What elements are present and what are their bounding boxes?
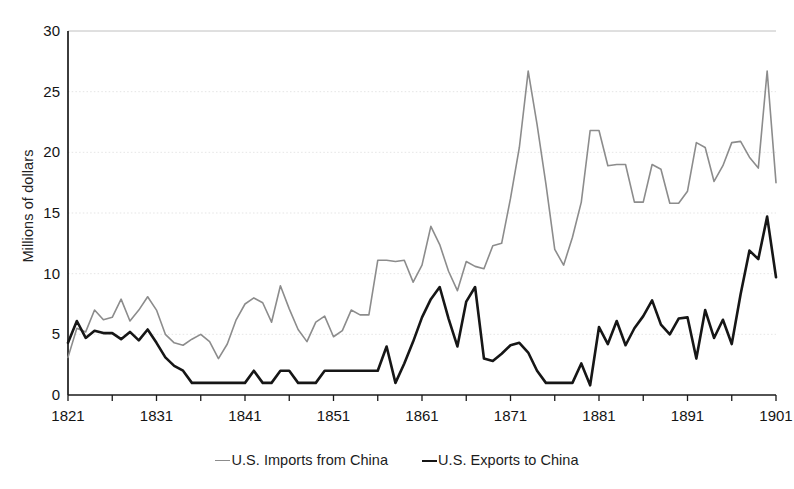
x-axis-tick-label: 1831 — [140, 408, 173, 423]
x-axis-tick-label: 1881 — [582, 408, 615, 423]
data-series — [68, 71, 776, 385]
x-axis-tick-label: 1891 — [671, 408, 704, 423]
chart-legend: U.S. Imports from China U.S. Exports to … — [0, 452, 794, 468]
line-chart: Millions of dollars 051015202530 1821183… — [0, 0, 794, 489]
x-axis-tick-label: 1901 — [759, 408, 792, 423]
legend-item-exports[interactable]: U.S. Exports to China — [422, 452, 578, 468]
legend-label-exports: U.S. Exports to China — [438, 452, 578, 468]
legend-label-imports: U.S. Imports from China — [231, 452, 388, 468]
x-axis-tick-label: 1871 — [494, 408, 527, 423]
legend-item-imports[interactable]: U.S. Imports from China — [215, 452, 388, 468]
x-axis-tick-label: 1861 — [405, 408, 438, 423]
gridlines — [68, 31, 776, 334]
x-axis-tick-label: 1841 — [228, 408, 261, 423]
series-line — [68, 217, 776, 386]
x-axis-tick-label: 1821 — [51, 408, 84, 423]
axis-lines — [68, 31, 776, 395]
x-axis-tick-marks — [68, 395, 776, 401]
x-axis-tick-label: 1851 — [317, 408, 350, 423]
